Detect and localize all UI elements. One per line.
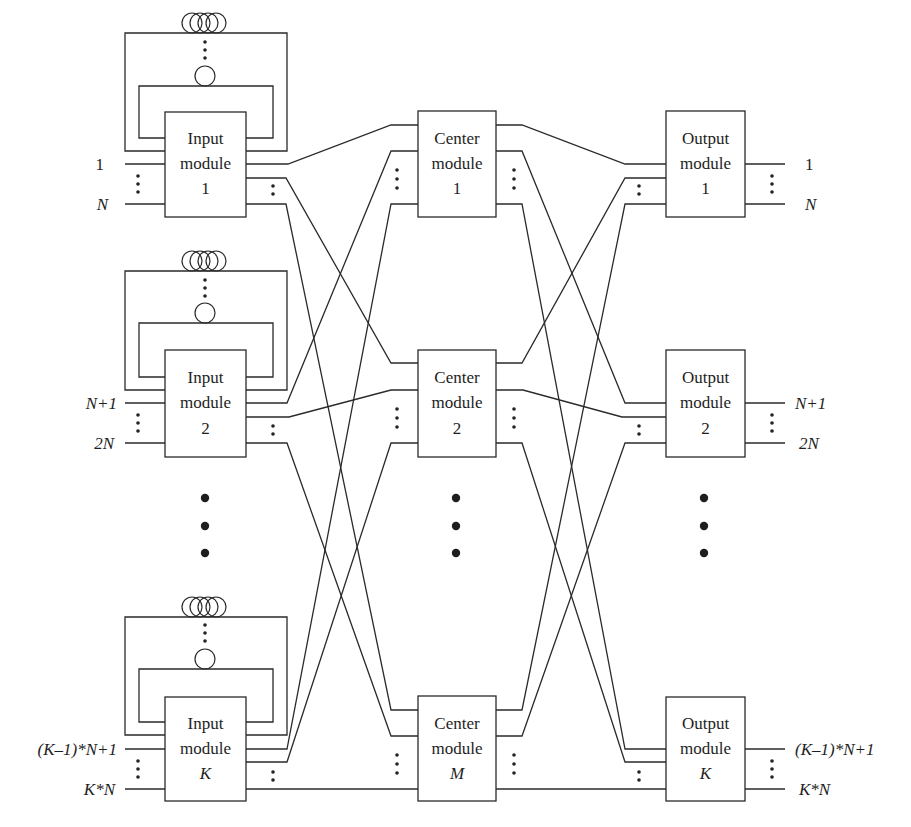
column-continuation-dots — [201, 494, 708, 557]
single-loop-icon — [195, 66, 215, 86]
vertical-ellipsis-icon — [512, 168, 516, 190]
module-label: Output — [682, 368, 730, 387]
module-label: module — [432, 393, 483, 412]
module-label: Center — [434, 129, 480, 148]
port-label: K*N — [798, 780, 832, 799]
module-index: 1 — [453, 179, 462, 198]
output-port-labels: 1 N N+1 2N (K–1)*N+1 K*N — [794, 155, 874, 799]
module-label: module — [680, 739, 731, 758]
port-label: K*N — [83, 780, 117, 799]
module-index: 1 — [701, 179, 710, 198]
port-label: N+1 — [794, 394, 826, 413]
port-label: 1 — [96, 155, 105, 174]
vertical-ellipsis-icon — [637, 770, 641, 782]
output-module-k: Output module K — [666, 697, 745, 801]
module-label: module — [180, 154, 231, 173]
center-output-links — [496, 125, 666, 789]
port-label: N+1 — [85, 394, 117, 413]
center-module-2: Center module 2 — [418, 350, 496, 457]
input-module-1: Input module 1 — [165, 112, 246, 217]
vertical-ellipsis-icon — [770, 413, 774, 433]
port-ellipses — [136, 168, 774, 782]
input-port-labels: 1 N N+1 2N (K–1)*N+1 K*N — [38, 155, 117, 799]
vertical-ellipsis-icon — [271, 184, 275, 196]
module-label: module — [180, 393, 231, 412]
vertical-ellipsis-icon — [203, 623, 207, 643]
vertical-ellipsis-icon — [512, 753, 516, 775]
module-index: 1 — [201, 179, 210, 198]
port-label: 1 — [805, 155, 814, 174]
output-module-2: Output module 2 — [666, 350, 745, 457]
vertical-ellipsis-icon — [395, 753, 399, 775]
vertical-ellipsis-icon — [395, 168, 399, 190]
module-label: module — [432, 739, 483, 758]
vertical-ellipsis-icon — [271, 770, 275, 782]
vertical-ellipsis-icon — [512, 407, 516, 429]
module-label: Output — [682, 714, 730, 733]
vertical-ellipsis-icon — [203, 40, 207, 60]
module-index: 2 — [201, 419, 210, 438]
vertical-ellipsis-icon — [395, 407, 399, 429]
port-label: N — [96, 195, 110, 214]
module-label: Input — [188, 129, 224, 148]
port-label: (K–1)*N+1 — [795, 740, 874, 759]
center-module-1: Center module 1 — [418, 111, 496, 217]
vertical-ellipsis-icon — [637, 424, 641, 436]
module-index: K — [699, 764, 713, 783]
vertical-ellipsis-icon — [203, 278, 207, 298]
module-label: module — [680, 154, 731, 173]
single-loop-icon — [195, 649, 215, 669]
fiber-coil-icon — [182, 251, 226, 271]
center-module-m: Center module M — [418, 696, 496, 801]
vertical-ellipsis-icon — [136, 759, 140, 779]
fiber-coil-icon — [182, 597, 226, 617]
vertical-ellipsis-icon — [637, 184, 641, 196]
module-index: 2 — [453, 419, 462, 438]
module-label: Input — [188, 368, 224, 387]
module-label: module — [432, 154, 483, 173]
module-index: K — [199, 764, 213, 783]
input-module-2: Input module 2 — [165, 350, 246, 457]
port-label: (K–1)*N+1 — [38, 740, 117, 759]
vertical-ellipsis-icon — [136, 174, 140, 194]
output-lines — [745, 164, 785, 789]
port-label: N — [804, 195, 818, 214]
input-lines — [125, 164, 165, 789]
fiber-coil-icon — [182, 13, 226, 33]
module-label: module — [680, 393, 731, 412]
vertical-ellipsis-icon — [136, 413, 140, 433]
input-module-k: Input module K — [165, 697, 246, 801]
module-label: Center — [434, 714, 480, 733]
vertical-ellipsis-icon — [271, 424, 275, 436]
module-index: 2 — [701, 419, 710, 438]
port-label: 2N — [799, 434, 821, 453]
single-loop-icon — [195, 303, 215, 323]
switch-network-diagram: Input module 1 Input module 2 Input modu… — [0, 0, 911, 827]
module-label: module — [180, 739, 231, 758]
module-label: Output — [682, 129, 730, 148]
module-label: Input — [188, 714, 224, 733]
module-index: M — [449, 764, 465, 783]
vertical-ellipsis-icon — [770, 759, 774, 779]
input-center-links — [246, 125, 418, 789]
output-module-1: Output module 1 — [666, 111, 745, 217]
module-label: Center — [434, 368, 480, 387]
vertical-ellipsis-icon — [770, 174, 774, 194]
port-label: 2N — [94, 434, 116, 453]
